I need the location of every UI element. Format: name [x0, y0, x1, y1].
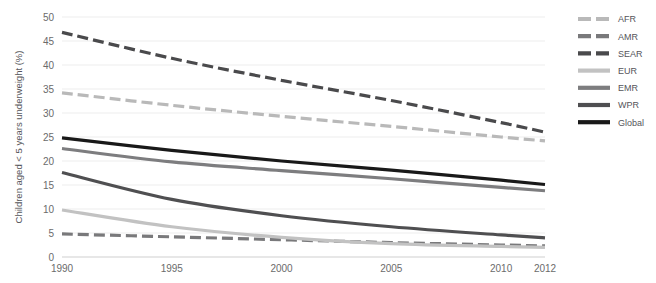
y-tick-label: 45	[43, 36, 55, 47]
y-tick-label: 25	[43, 132, 55, 143]
y-tick-label: 20	[43, 156, 55, 167]
series-line-emr	[62, 149, 545, 191]
line-chart: 05101520253035404550 1990199520002005201…	[0, 0, 656, 283]
legend-label-sear: SEAR	[618, 49, 643, 59]
x-tick-label: 2012	[534, 263, 557, 274]
x-tick-label: 2005	[380, 263, 403, 274]
x-tick-label: 2000	[270, 263, 293, 274]
legend-label-emr: EMR	[618, 83, 639, 93]
y-tick-label: 10	[43, 204, 55, 215]
y-axis-tick-labels: 05101520253035404550	[43, 12, 55, 263]
series-line-wpr	[62, 173, 545, 238]
chart-legend: AFRAMRSEAREUREMRWPRGlobal	[578, 14, 644, 127]
x-tick-label: 1990	[51, 263, 74, 274]
legend-label-wpr: WPR	[618, 100, 639, 110]
x-axis-tick-labels: 199019952000200520102012	[51, 263, 557, 274]
y-tick-label: 40	[43, 60, 55, 71]
legend-label-amr: AMR	[618, 32, 639, 42]
x-tick-label: 2010	[490, 263, 513, 274]
chart-container: 05101520253035404550 1990199520002005201…	[0, 0, 656, 283]
y-tick-label: 30	[43, 108, 55, 119]
legend-label-afr: AFR	[618, 14, 637, 24]
y-tick-label: 5	[48, 228, 54, 239]
legend-label-eur: EUR	[618, 66, 638, 76]
y-tick-label: 50	[43, 12, 55, 23]
y-tick-label: 15	[43, 180, 55, 191]
y-tick-label: 0	[48, 252, 54, 263]
y-axis-title: Children aged < 5 years underweight (%)	[13, 51, 24, 224]
y-tick-label: 35	[43, 84, 55, 95]
legend-label-global: Global	[618, 118, 644, 128]
x-tick-label: 1995	[161, 263, 184, 274]
y-axis-title-text: Children aged < 5 years underweight (%)	[13, 51, 24, 224]
